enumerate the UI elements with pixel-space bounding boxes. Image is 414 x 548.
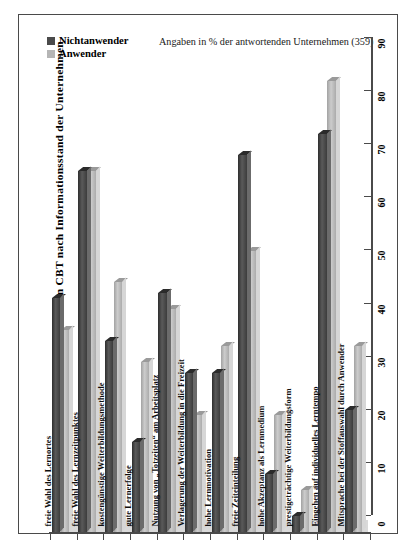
bar-side-face [353,405,357,532]
value-axis-label: 30 [376,357,387,367]
category-axis-tick [317,533,318,540]
bar-face [132,442,141,532]
bar-nichtanwender [132,442,141,532]
chart-figure: Vorteile von CBT nach Informationsstand … [0,0,414,548]
bar-side-face [122,278,126,532]
bar-nichtanwender [158,293,167,532]
bar-face [52,298,61,532]
category-axis-tick [183,533,184,540]
bar-nichtanwender [265,474,274,532]
category-axis-tick [103,533,104,540]
value-axis-label: 20 [376,410,387,420]
bar-nichtanwender [212,373,221,532]
bar-side-face [309,485,313,532]
bar-side-face [69,325,73,532]
bar-nichtanwender [318,134,327,532]
chart-category-axis [49,532,371,533]
value-axis-label: 80 [376,92,387,102]
category-axis-tick [263,533,264,540]
category-axis-tick [50,533,51,540]
bar-group [318,36,336,532]
category-axis-tick [370,533,371,540]
bar-group [52,36,70,532]
bar-side-face [176,304,180,532]
value-axis-label: 90 [376,39,387,49]
bar-group [345,36,363,532]
category-axis-tick [343,533,344,540]
chart-value-axis: 0102030405060708090 [371,37,373,515]
bar-side-face [96,166,100,532]
value-axis-tick [364,303,371,304]
bar-group [212,36,230,532]
category-axis-tick [77,533,78,540]
value-axis-tick [364,196,371,197]
bar-nichtanwender [105,341,114,532]
value-axis-label: 60 [376,198,387,208]
bar-nichtanwender [78,171,87,532]
bar-side-face [60,294,64,532]
bar-side-face [247,150,251,532]
value-axis-tick [364,249,371,250]
bar-group [105,36,123,532]
value-axis-label: 10 [376,463,387,473]
bar-nichtanwender [345,410,354,532]
bar-face [292,516,301,532]
value-axis-tick [364,143,371,144]
bar-group [238,36,256,532]
chart-plot-area: freie Wahl des Lernortesfreie Wahl des L… [49,37,369,533]
bar-side-face [193,368,197,532]
value-axis-label: 40 [376,304,387,314]
bar-side-face [140,437,144,532]
bar-face [212,373,221,532]
bar-group [158,36,176,532]
value-axis-label: 0 [376,522,387,527]
value-axis-label: 70 [376,145,387,155]
bar-side-face [167,288,171,532]
bar-face [238,155,247,532]
bar-nichtanwender [185,373,194,532]
category-axis-tick [210,533,211,540]
category-axis-tick [290,533,291,540]
value-axis-tick [364,90,371,91]
bar-side-face [113,336,117,532]
bar-face [318,134,327,532]
bar-side-face [256,246,260,532]
category-axis-tick [130,533,131,540]
bar-side-face [273,469,277,532]
bar-group [132,36,150,532]
bar-side-face [220,368,224,532]
bar-nichtanwender [292,516,301,532]
bar-group [185,36,203,532]
bar-side-face [149,357,153,532]
bar-side-face [202,410,206,532]
value-axis-label: 50 [376,251,387,261]
category-axis-tick [157,533,158,540]
bar-nichtanwender [238,155,247,532]
bar-side-face [327,129,331,532]
bar-group [78,36,96,532]
bar-side-face [229,341,233,532]
bar-nichtanwender [52,298,61,532]
bar-group [265,36,283,532]
bar-face [78,171,87,532]
bar-side-face [362,341,366,532]
bar-face [158,293,167,532]
bar-group [292,36,310,532]
bar-side-face [282,410,286,532]
bar-side-face [87,166,91,532]
chart-frame: Vorteile von CBT nach Informationsstand … [18,14,398,534]
bar-side-face [336,76,340,532]
value-axis-tick [364,37,371,38]
category-axis-tick [237,533,238,540]
